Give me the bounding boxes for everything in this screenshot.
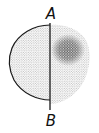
left-half-fill: [10, 25, 50, 100]
label-b: B: [46, 114, 56, 129]
label-a: A: [46, 7, 56, 22]
right-half-region: [48, 20, 95, 110]
left-half-region: [10, 25, 50, 100]
dense-dot-cluster: [48, 30, 88, 70]
